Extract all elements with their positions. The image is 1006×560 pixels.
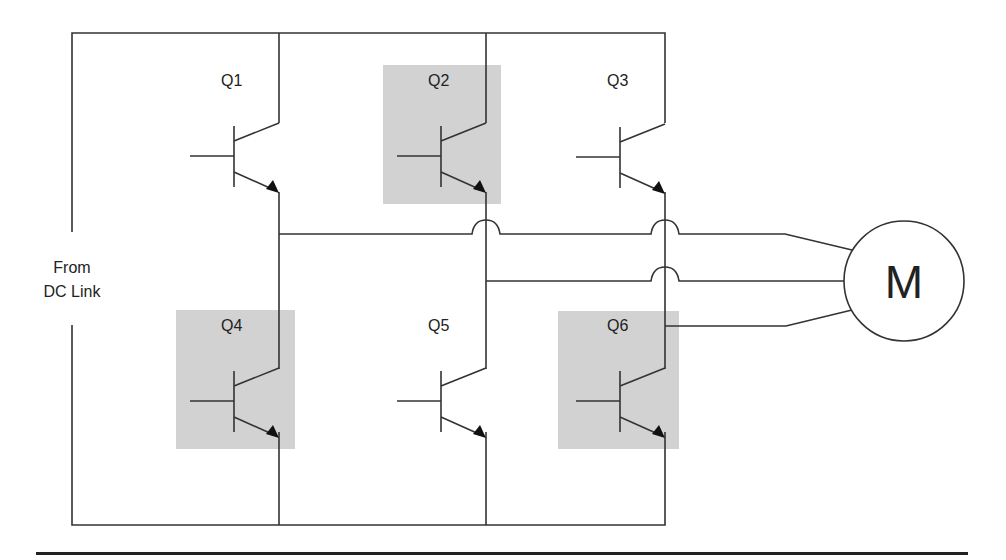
source-label-line1: From [53,259,90,276]
label-q4: Q4 [221,317,242,334]
transistor-q5 [397,368,486,438]
bottom-rule [36,552,968,555]
transistor-q3 [576,124,665,194]
motor-label: M [885,256,923,308]
dc-bus [72,33,665,525]
label-q2: Q2 [428,72,449,89]
label-q6: Q6 [607,317,628,334]
phase-wires [279,220,852,326]
transistor-q1 [190,123,279,193]
label-q3: Q3 [607,72,628,89]
source-label-line2: DC Link [44,283,102,300]
inverter-circuit-diagram: Q1 Q2 Q3 Q4 Q5 Q6 From DC Link M [0,0,1006,560]
label-q1: Q1 [221,72,242,89]
label-q5: Q5 [428,317,449,334]
